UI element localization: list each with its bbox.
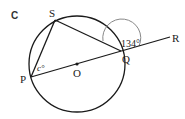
label-p: P <box>20 73 26 85</box>
label-o: O <box>73 67 81 79</box>
center-point-o <box>75 62 78 65</box>
line-pqr <box>31 37 170 77</box>
segment-sq <box>55 20 121 51</box>
label-s: S <box>49 7 55 19</box>
label-q: Q <box>122 53 130 65</box>
part-label: C <box>11 10 18 21</box>
label-r: R <box>172 32 180 44</box>
geometry-diagram: C S P O Q R c° 134° <box>0 0 185 119</box>
angle-label-c: c° <box>37 63 45 73</box>
angle-label-134: 134° <box>121 38 140 49</box>
